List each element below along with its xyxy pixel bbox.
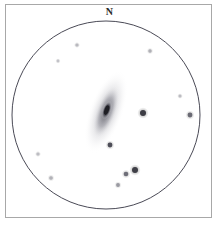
bright-star-east (140, 110, 146, 116)
field-of-view-drawing (0, 0, 219, 229)
bright-star-lower-right (132, 167, 138, 173)
faint-star-right (179, 95, 182, 98)
faint-star-lower-left (36, 152, 39, 155)
faint-star-upper-right (148, 49, 151, 52)
star-lower-right-companion (124, 172, 129, 177)
star-lower-right-faint (116, 183, 120, 187)
eyepiece-sketch: N (0, 0, 219, 229)
edge-star-east (188, 113, 193, 118)
faint-star-lower-left-outer (49, 176, 53, 180)
faint-star-upper-left (75, 43, 78, 46)
faint-star-upper-left-outer (57, 60, 60, 63)
star-below-galaxy (108, 143, 113, 148)
